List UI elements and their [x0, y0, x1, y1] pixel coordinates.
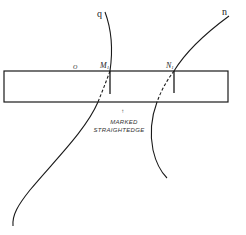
- curve-q-hidden: [98, 71, 110, 102]
- curve-q-lower: [13, 102, 98, 226]
- caption-line-2: STRAIGHTEDGE: [94, 127, 146, 133]
- caption-arrow: ↑: [121, 108, 124, 114]
- diagram-canvas: q n O M1 N1 ↑ MARKED STRAIGHTEDGE: [0, 0, 246, 235]
- marked-straightedge: [4, 71, 228, 102]
- curve-n-label: n: [222, 6, 227, 17]
- curve-n-lower: [151, 102, 167, 178]
- curve-q-label: q: [97, 8, 102, 19]
- caption-line-1: MARKED: [110, 119, 138, 125]
- curve-n-hidden: [157, 71, 174, 102]
- point-n1-label: N1: [165, 61, 174, 70]
- point-m1-label: M1: [99, 61, 109, 70]
- origin-label: O: [73, 64, 78, 70]
- curve-n-upper: [174, 16, 229, 71]
